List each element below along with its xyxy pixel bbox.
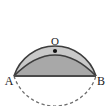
label-vertex-a: A: [5, 74, 14, 88]
geometry-figure-container: O A B: [0, 0, 110, 106]
label-center-o: O: [51, 35, 59, 47]
circle-geometry-diagram: O A B: [0, 0, 110, 106]
label-vertex-b: B: [97, 74, 105, 88]
center-point-dot: [53, 49, 57, 53]
